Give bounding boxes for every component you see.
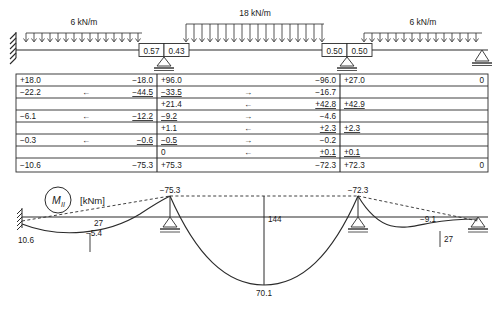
cell-c4: −16.7 xyxy=(315,88,336,97)
total-c1: −10.6 xyxy=(20,161,41,170)
annotation-parabola-ordinate-cd: 27 xyxy=(444,235,454,244)
load-label-ab: 6 kN/m xyxy=(71,17,98,27)
cell-c1: +18.0 xyxy=(20,76,41,85)
cell-c3: −0.5 xyxy=(161,136,178,145)
moment-units: [kNm] xyxy=(80,195,105,206)
pin-support-b-moment xyxy=(160,217,180,232)
table-total-row: −10.6 −75.3 +75.3 −72.3 +72.3 0 xyxy=(20,161,484,170)
cell-c3: 0 xyxy=(161,148,166,157)
df-b-right: 0.43 xyxy=(169,47,185,56)
table-row: +1.1 ← +2.3 +2.3 xyxy=(161,124,361,133)
cell-arrow-right: ← xyxy=(244,100,252,109)
cell-c6: 0 xyxy=(479,76,484,85)
cell-c1: −0.3 xyxy=(20,136,37,145)
cell-c4: −0.2 xyxy=(320,136,337,145)
pin-support-b-top xyxy=(154,57,174,71)
table-row: −0.3 ← −0.6 −0.5 → −0.2 xyxy=(20,136,336,145)
load-span-ab xyxy=(24,33,143,42)
cell-c4: +42.8 xyxy=(315,100,336,109)
cell-c5: +0.1 xyxy=(344,148,361,157)
cell-arrow-right: → xyxy=(244,88,252,97)
cell-arrow-right: ← xyxy=(244,124,252,133)
load-label-bc: 18 kN/m xyxy=(239,8,271,18)
df-c-right: 0.50 xyxy=(352,47,368,56)
total-c2: −75.3 xyxy=(132,161,153,170)
load-span-cd xyxy=(362,33,483,42)
cell-c2: −0.6 xyxy=(137,136,154,145)
cell-c2: −12.2 xyxy=(132,112,153,121)
annotation-span-moment-ab: −5.4 xyxy=(86,229,103,238)
cell-c4: −96.0 xyxy=(315,76,336,85)
cell-c4: +0.1 xyxy=(320,148,337,157)
cell-c5: +42.9 xyxy=(344,100,365,109)
cell-c5: +27.0 xyxy=(344,76,365,85)
fixed-support-left xyxy=(10,32,16,64)
cell-c3: −33.5 xyxy=(161,88,182,97)
cell-arrow-right: → xyxy=(244,136,252,145)
total-c3: +75.3 xyxy=(161,161,182,170)
cell-c3: −9.2 xyxy=(161,112,178,121)
cell-c3: +21.4 xyxy=(161,100,182,109)
moment-symbol: M xyxy=(52,194,61,206)
annotation-parabola-ordinate-bc: 144 xyxy=(268,215,282,224)
annotation-fixed-end-moment-a: 10.6 xyxy=(18,236,34,245)
annotation-span-moment-bc: 70.1 xyxy=(256,289,272,298)
pin-support-c-top xyxy=(337,57,357,71)
cell-c5: +2.3 xyxy=(344,124,361,133)
table-row: 0 ← +0.1 +0.1 xyxy=(161,148,361,157)
figure-canvas: 6 kN/m 18 kN/m 6 kN/m 0.57 0.43 0.50 0.5… xyxy=(0,0,504,331)
fixed-support-left-moment xyxy=(17,208,22,230)
pin-support-c-moment xyxy=(348,217,368,232)
annotation-support-moment-c: −72.3 xyxy=(348,186,369,195)
annotation-support-moment-b: −75.3 xyxy=(160,186,181,195)
pin-support-d-top xyxy=(472,50,492,66)
cell-c4: −4.6 xyxy=(320,112,337,121)
table-row: −22.2 ← −44.5 −33.5 → −16.7 xyxy=(20,88,336,97)
cell-arrow-left: ← xyxy=(82,88,90,97)
df-b-left: 0.57 xyxy=(144,47,160,56)
cell-c1: −6.1 xyxy=(20,112,37,121)
load-label-cd: 6 kN/m xyxy=(410,17,437,27)
cell-c1: −22.2 xyxy=(20,88,41,97)
annotation-span-moment-cd: −9.1 xyxy=(420,215,437,224)
table-row: +18.0 −18.0 +96.0 −96.0 +27.0 0 xyxy=(20,76,484,85)
total-c5: +72.3 xyxy=(344,161,365,170)
table-row: −6.1 ← −12.2 −9.2 → −4.6 xyxy=(20,112,336,121)
cell-arrow-left: ← xyxy=(82,136,90,145)
cell-c2: −44.5 xyxy=(132,88,153,97)
cell-c4: +2.3 xyxy=(320,124,337,133)
moment-subscript: II xyxy=(61,201,65,208)
cell-c2: −18.0 xyxy=(132,76,153,85)
moment-distribution-figure: 6 kN/m 18 kN/m 6 kN/m 0.57 0.43 0.50 0.5… xyxy=(0,0,504,331)
annotation-parabola-ordinate-ab: 27 xyxy=(94,219,104,228)
cell-arrow-right: → xyxy=(244,112,252,121)
total-c4: −72.3 xyxy=(315,161,336,170)
load-span-bc xyxy=(184,24,325,42)
cell-arrow-left: ← xyxy=(82,112,90,121)
table-row: +21.4 ← +42.8 +42.9 xyxy=(161,100,365,109)
df-c-left: 0.50 xyxy=(327,47,343,56)
total-c6: 0 xyxy=(479,161,484,170)
cell-c3: +96.0 xyxy=(161,76,182,85)
cell-arrow-right: ← xyxy=(244,148,252,157)
cell-c3: +1.1 xyxy=(161,124,178,133)
